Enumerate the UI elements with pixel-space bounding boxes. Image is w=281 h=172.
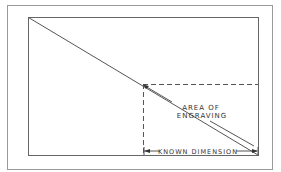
- engraving-diagram: AREA OF ENGRAVING KNOWN DIMENSION: [0, 0, 281, 172]
- arrowhead-right: [252, 149, 258, 153]
- arrowhead-left: [144, 149, 150, 153]
- engraving-label: ENGRAVING: [177, 112, 228, 120]
- leader-line-bottom: [210, 121, 254, 146]
- outer-frame: [8, 6, 273, 170]
- area-of-label: AREA OF: [182, 104, 220, 112]
- known-dimension-label: KNOWN DIMENSION: [158, 148, 238, 156]
- leader-line-top: [145, 86, 172, 102]
